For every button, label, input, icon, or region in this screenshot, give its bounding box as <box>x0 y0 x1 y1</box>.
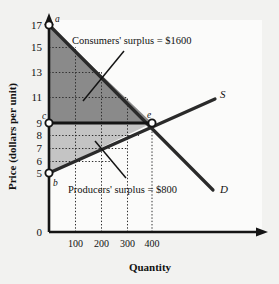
point-marker-e <box>148 119 155 126</box>
y-tick-5: 5 <box>37 167 43 179</box>
y-tick-7: 7 <box>37 142 43 154</box>
supply-curve-label: S <box>220 88 226 100</box>
x-tick-200: 200 <box>94 238 109 249</box>
y-tick-8: 8 <box>37 129 43 141</box>
supply-demand-chart: a c b e S D 17 15 13 11 9 8 7 6 5 0 100 … <box>0 0 279 284</box>
y-tick-13: 13 <box>31 66 43 78</box>
y-tick-15: 15 <box>31 41 43 53</box>
x-axis-title: Quantity <box>129 261 172 273</box>
point-marker-b <box>45 169 52 176</box>
y-tick-17: 17 <box>31 19 43 31</box>
demand-curve-label: D <box>219 183 228 195</box>
point-label-a: a <box>55 14 60 24</box>
point-marker-a <box>45 21 52 28</box>
producers-surplus-label: Producers' surplus = $800 <box>68 184 177 195</box>
point-label-e: e <box>147 110 151 120</box>
y-tick-11: 11 <box>31 91 42 103</box>
consumers-surplus-label: Consumers' surplus = $1600 <box>72 35 192 46</box>
y-tick-0: 0 <box>37 226 43 238</box>
y-tick-6: 6 <box>37 155 43 167</box>
x-tick-300: 300 <box>120 238 135 249</box>
y-axis-title: Price (dollars per unit) <box>6 83 19 190</box>
point-marker-c <box>45 119 52 126</box>
y-tick-9: 9 <box>37 117 43 129</box>
point-label-b: b <box>53 178 58 188</box>
x-tick-400: 400 <box>145 238 160 249</box>
x-tick-100: 100 <box>68 238 83 249</box>
